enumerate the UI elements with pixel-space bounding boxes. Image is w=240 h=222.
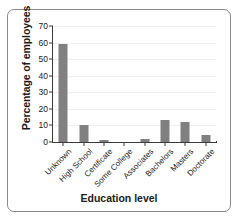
- gridline: [53, 109, 216, 110]
- y-axis-title: Percentage of employees: [20, 0, 32, 138]
- x-axis-tick-mark: [124, 142, 125, 146]
- y-axis-tick-label: 0: [43, 137, 48, 147]
- bar: [161, 120, 170, 142]
- y-axis-tick-mark: [49, 75, 53, 76]
- gridline: [53, 76, 216, 77]
- bar: [79, 125, 88, 142]
- bar: [181, 122, 190, 142]
- y-axis-tick-mark: [49, 125, 53, 126]
- y-axis-tick-mark: [49, 26, 53, 27]
- x-axis-tick-mark: [83, 142, 84, 146]
- x-axis-tick-mark: [165, 142, 166, 146]
- x-axis-tick-mark: [185, 142, 186, 146]
- y-axis-tick-label: 40: [39, 71, 48, 81]
- plot-area: 010203040506070UnknownHigh SchoolCertifi…: [53, 26, 216, 142]
- y-axis-tick-mark: [49, 59, 53, 60]
- gridline: [53, 125, 216, 126]
- gridline: [53, 26, 216, 27]
- x-axis-title: Education level: [8, 192, 230, 204]
- y-axis-tick-mark: [49, 42, 53, 43]
- bar: [201, 135, 210, 142]
- figure-frame: Percentage of employees Education level …: [7, 9, 231, 212]
- x-axis-tick-mark: [103, 142, 104, 146]
- gridline: [53, 92, 216, 93]
- bar: [59, 44, 68, 142]
- y-axis-tick-label: 20: [39, 104, 48, 114]
- gridline: [53, 43, 216, 44]
- x-axis-tick-mark: [205, 142, 206, 146]
- y-axis-tick-mark: [49, 108, 53, 109]
- x-axis-tick-mark: [144, 142, 145, 146]
- y-axis-tick-label: 30: [39, 87, 48, 97]
- y-axis-tick-label: 70: [39, 21, 48, 31]
- y-axis-tick-label: 50: [39, 54, 48, 64]
- x-axis-tick-mark: [63, 142, 64, 146]
- y-axis-tick-mark: [49, 142, 53, 143]
- y-axis-tick-label: 60: [39, 38, 48, 48]
- y-axis-tick-mark: [49, 92, 53, 93]
- gridline: [53, 59, 216, 60]
- y-axis-tick-label: 10: [39, 120, 48, 130]
